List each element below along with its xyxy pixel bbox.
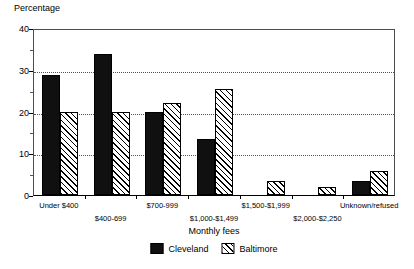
bar-cleveland-1 bbox=[94, 54, 112, 195]
y-minor-tick-mark bbox=[30, 50, 33, 51]
y-tick-label: 40 bbox=[19, 25, 29, 34]
y-minor-tick-mark bbox=[30, 92, 33, 93]
bar-baltimore-6 bbox=[370, 171, 388, 195]
bar-cleveland-3 bbox=[197, 139, 215, 195]
gridline bbox=[34, 114, 394, 115]
legend-label: Baltimore bbox=[240, 244, 278, 254]
y-tick-mark bbox=[29, 154, 33, 155]
bar-baltimore-3 bbox=[215, 89, 233, 195]
y-tick-mark bbox=[29, 71, 33, 72]
y-axis-tick-labels: 010203040 bbox=[0, 0, 29, 269]
bar-baltimore-1 bbox=[112, 112, 130, 196]
bar-cleveland-0 bbox=[42, 75, 60, 195]
y-minor-tick-mark bbox=[30, 133, 33, 134]
x-axis-label-1: $400-699 bbox=[95, 214, 127, 223]
gridline bbox=[34, 72, 394, 73]
x-tick-mark bbox=[136, 196, 137, 199]
y-minor-tick-mark bbox=[30, 175, 33, 176]
legend-entry-cleveland: Cleveland bbox=[150, 243, 208, 254]
bar-baltimore-4 bbox=[267, 181, 285, 195]
legend-entry-baltimore: Baltimore bbox=[222, 243, 278, 254]
legend-swatch-cleveland-icon bbox=[150, 243, 163, 254]
x-tick-mark bbox=[85, 196, 86, 199]
x-axis-label-5: $2,000-$2,250 bbox=[293, 214, 341, 223]
plot-area bbox=[33, 29, 395, 196]
legend-swatch-baltimore-icon bbox=[222, 243, 235, 254]
x-tick-mark bbox=[188, 196, 189, 199]
y-tick-mark bbox=[29, 196, 33, 197]
x-axis-label-3: $1,000-$1,499 bbox=[190, 214, 238, 223]
x-tick-mark bbox=[343, 196, 344, 199]
bar-baltimore-0 bbox=[60, 112, 78, 196]
legend-label: Cleveland bbox=[168, 244, 208, 254]
x-axis-label-4: $1,500-$1,999 bbox=[242, 201, 290, 210]
bar-baltimore-2 bbox=[163, 103, 181, 195]
chart-legend: ClevelandBaltimore bbox=[150, 243, 277, 254]
bar-chart-figure: Percentage 010203040 Monthly fees Clevel… bbox=[0, 0, 414, 269]
bar-cleveland-6 bbox=[352, 181, 370, 195]
x-tick-mark bbox=[240, 196, 241, 199]
y-tick-label: 20 bbox=[19, 109, 29, 118]
y-tick-mark bbox=[29, 29, 33, 30]
x-tick-mark bbox=[292, 196, 293, 199]
x-axis-label-2: $700-999 bbox=[146, 201, 178, 210]
x-axis-label-0: Under $400 bbox=[39, 201, 78, 210]
bar-cleveland-2 bbox=[145, 112, 163, 196]
x-axis-title: Monthly fees bbox=[188, 226, 239, 237]
y-tick-label: 30 bbox=[19, 67, 29, 76]
y-tick-label: 10 bbox=[19, 150, 29, 159]
x-axis-label-6: Unknown/refused bbox=[340, 201, 398, 210]
bar-baltimore-5 bbox=[318, 187, 336, 195]
y-tick-mark bbox=[29, 113, 33, 114]
